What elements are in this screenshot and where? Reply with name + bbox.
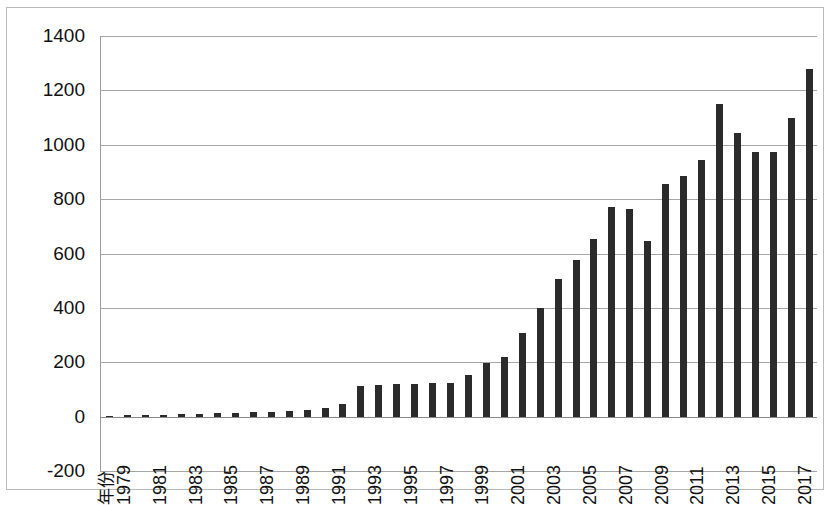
gridline-0: [100, 417, 817, 418]
bar: [196, 414, 203, 417]
y-tick-label: 200: [53, 351, 85, 373]
bar: [806, 69, 813, 417]
y-axis-tick-labels: -2000200400600800100012001400: [7, 36, 93, 471]
bar: [608, 207, 615, 416]
x-tick-label: 2001: [509, 465, 527, 505]
bar: [483, 363, 490, 416]
bar: [178, 414, 185, 416]
x-axis-title: 年份: [98, 471, 115, 505]
bar: [393, 384, 400, 417]
x-tick-label: 1993: [366, 465, 384, 505]
y-tick-label: -200: [47, 460, 85, 482]
bar: [214, 413, 221, 416]
y-tick-label: 800: [53, 188, 85, 210]
bar: [429, 383, 436, 416]
x-tick-label: 1985: [222, 465, 240, 505]
x-tick-label: 1997: [438, 465, 456, 505]
bar: [698, 160, 705, 417]
bar: [160, 415, 167, 417]
bar: [250, 412, 257, 416]
gridline-400: [100, 308, 817, 309]
x-tick-label: 2015: [760, 465, 778, 505]
x-tick-label: 2017: [796, 465, 814, 505]
chart-frame: -2000200400600800100012001400 年份19791981…: [6, 7, 824, 490]
x-tick-label: 2005: [581, 465, 599, 505]
bar: [555, 279, 562, 416]
gridline-1000: [100, 145, 817, 146]
x-tick-label: 1995: [402, 465, 420, 505]
x-tick-label: 1999: [473, 465, 491, 505]
bar: [142, 415, 149, 417]
bar: [339, 404, 346, 417]
bar: [106, 416, 113, 418]
bar: [680, 176, 687, 417]
bar: [286, 411, 293, 417]
y-tick-label: 1000: [43, 134, 85, 156]
bar: [501, 357, 508, 416]
y-tick-label: 600: [53, 243, 85, 265]
x-tick-label: 1979: [115, 465, 133, 505]
x-tick-label: 2007: [617, 465, 635, 505]
bar: [232, 413, 239, 417]
gridline-200: [100, 362, 817, 363]
bar: [519, 333, 526, 417]
bar: [411, 384, 418, 417]
bar: [644, 241, 651, 416]
bar: [770, 152, 777, 417]
y-tick-label: 400: [53, 297, 85, 319]
bar: [375, 385, 382, 417]
bar: [268, 412, 275, 417]
y-tick-label: 0: [74, 406, 85, 428]
gridline-600: [100, 254, 817, 255]
bar: [752, 152, 759, 417]
y-tick-label: 1400: [43, 25, 85, 47]
bar: [716, 104, 723, 417]
bar: [626, 209, 633, 417]
x-tick-label: 1981: [151, 465, 169, 505]
bar: [124, 415, 131, 417]
x-tick-label: 2009: [653, 465, 671, 505]
gridline-800: [100, 199, 817, 200]
bar: [447, 383, 454, 416]
gridline-1200: [100, 90, 817, 91]
x-tick-label: 1987: [258, 465, 276, 505]
x-tick-label: 1983: [187, 465, 205, 505]
bar: [357, 386, 364, 416]
plot-area: [100, 36, 817, 471]
bar: [465, 375, 472, 416]
x-tick-label: 2013: [724, 465, 742, 505]
bar: [573, 260, 580, 416]
bar: [590, 239, 597, 417]
bar: [734, 133, 741, 417]
x-tick-label: 1991: [330, 465, 348, 505]
bar: [662, 184, 669, 416]
bar: [537, 308, 544, 416]
x-tick-label: 1989: [294, 465, 312, 505]
x-tick-label: 2003: [545, 465, 563, 505]
bar: [304, 410, 311, 417]
bar: [322, 408, 329, 417]
gridline-1400: [100, 36, 817, 37]
bar: [788, 118, 795, 417]
x-axis-tick-labels: 年份19791981198319851987198919911993199519…: [100, 445, 817, 505]
y-tick-label: 1200: [43, 79, 85, 101]
x-tick-label: 2011: [688, 466, 706, 505]
